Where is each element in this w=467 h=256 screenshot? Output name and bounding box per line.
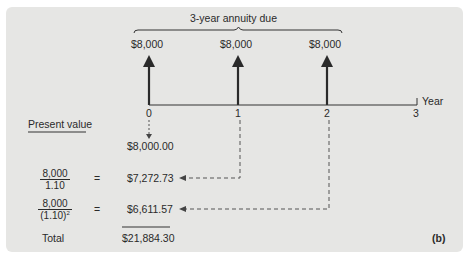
numerator: 8,000 xyxy=(38,198,72,210)
denominator: 1.10 xyxy=(40,180,70,191)
total-value: $21,884.30 xyxy=(122,232,175,244)
cash-flow-amount: $8,000 xyxy=(131,38,163,50)
discount-path-year2 xyxy=(183,120,329,209)
numerator: 8,000 xyxy=(40,168,70,180)
cash-flow-amount: $8,000 xyxy=(309,38,341,50)
arrowhead-year0 xyxy=(146,134,152,139)
present-value-header: Present value xyxy=(28,118,92,130)
equals-sign: = xyxy=(94,172,100,184)
panel-label: (b) xyxy=(432,232,445,244)
pv-value-year2: $6,611.57 xyxy=(127,203,173,215)
equals-sign: = xyxy=(94,203,100,215)
total-label: Total xyxy=(42,232,64,244)
fraction-year2: 8,000 (1.10)2 xyxy=(38,198,72,221)
fraction-year1: 8,000 1.10 xyxy=(40,168,70,191)
diagram-title: 3-year annuity due xyxy=(190,12,277,24)
tick-label: 3 xyxy=(413,107,419,119)
cash-flow-amount: $8,000 xyxy=(220,38,252,50)
tick-label: 1 xyxy=(235,107,241,119)
denominator-base: (1.10) xyxy=(40,210,66,221)
tick-label: 2 xyxy=(324,107,330,119)
discount-path-year1 xyxy=(183,120,240,178)
denominator: (1.10)2 xyxy=(38,210,72,221)
annuity-brace xyxy=(134,27,342,33)
cash-flow-arrows xyxy=(143,55,333,105)
axis-label: Year xyxy=(422,95,443,107)
pv-value-year0: $8,000.00 xyxy=(127,140,174,152)
exponent: 2 xyxy=(66,210,69,216)
pv-value-year1: $7,272.73 xyxy=(127,172,174,184)
tick-label: 0 xyxy=(146,107,152,119)
